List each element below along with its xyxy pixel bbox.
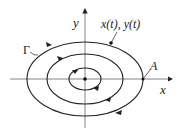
- trajectory-label: x(t), y(t): [100, 17, 140, 31]
- trajectory-leader: [111, 32, 117, 43]
- gamma-label: Γ: [23, 43, 30, 57]
- arrow-middle-top-icon: [57, 56, 63, 61]
- arrow-outer-top-icon: [46, 42, 52, 47]
- origin-point: [83, 77, 87, 81]
- x-axis-label: x: [159, 82, 166, 97]
- y-axis-label: y: [71, 15, 79, 30]
- point-a-label: A: [149, 59, 158, 73]
- a-leader: [143, 70, 150, 79]
- phase-plane-diagram: y x x(t), y(t) A Γ: [0, 0, 180, 138]
- gamma-leader: [30, 52, 38, 55]
